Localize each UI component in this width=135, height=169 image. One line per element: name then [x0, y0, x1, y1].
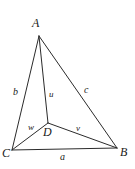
side-label-c: c [84, 85, 88, 95]
segment-DB [48, 123, 117, 148]
geometry-figure: A B C D a b c u v w [0, 0, 135, 169]
vertex-label-B: B [120, 146, 127, 158]
triangle-diagram-svg [0, 0, 135, 169]
cevian-label-v: v [76, 124, 80, 133]
segment-CB [12, 148, 117, 150]
side-label-b: b [13, 87, 18, 97]
cevian-label-u: u [49, 90, 54, 99]
vertex-label-D: D [43, 126, 52, 138]
side-label-a: a [60, 152, 65, 162]
vertex-label-A: A [32, 17, 39, 29]
segment-AD [39, 36, 48, 123]
vertex-label-C: C [2, 147, 10, 159]
cevian-label-w: w [28, 123, 34, 132]
